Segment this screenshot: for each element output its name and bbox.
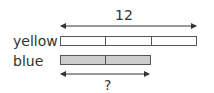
yellow-segment bbox=[61, 37, 106, 45]
blue-segment bbox=[106, 56, 150, 64]
unknown-label: ? bbox=[104, 77, 111, 93]
blue-label: blue bbox=[13, 53, 43, 69]
blue-bar bbox=[60, 55, 151, 65]
yellow-label: yellow bbox=[13, 33, 58, 49]
yellow-bar bbox=[60, 36, 197, 46]
total-label: 12 bbox=[115, 7, 133, 23]
yellow-segment bbox=[106, 37, 151, 45]
yellow-segment bbox=[152, 37, 196, 45]
blue-segment bbox=[61, 56, 106, 64]
